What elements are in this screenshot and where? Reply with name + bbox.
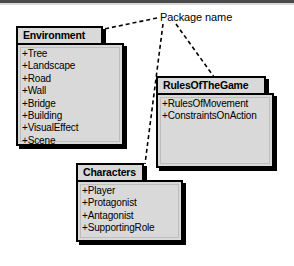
package-member: +ConstraintsOnAction (162, 110, 274, 122)
leader-line-environment (104, 18, 157, 29)
package-member: +SupportingRole (82, 222, 183, 234)
package-environment-tab[interactable]: Environment (16, 26, 103, 43)
package-member: +Scene (22, 135, 124, 147)
package-member: +Building (22, 110, 124, 122)
package-member: +Wall (22, 85, 124, 97)
package-member: +Tree (22, 48, 124, 60)
package-member: +Road (22, 73, 124, 85)
annotation-package-name-label: Package name (160, 11, 232, 23)
top-border-fade (0, 3, 294, 5)
package-member: +Protagonist (82, 197, 183, 209)
package-characters-tab[interactable]: Characters (76, 163, 144, 180)
package-rulesofthegame-tab[interactable]: RulesOfTheGame (156, 76, 266, 93)
package-environment-name: Environment (18, 30, 90, 42)
package-member: +RulesOfMovement (162, 98, 274, 110)
package-environment-members: +Tree +Landscape +Road +Wall +Bridge +Bu… (16, 45, 124, 147)
package-member: +Bridge (22, 98, 124, 110)
package-member: +Player (82, 185, 183, 197)
diagram-canvas: Environment +Tree +Landscape +Road +Wall… (0, 0, 294, 266)
package-rulesofthegame-members: +RulesOfMovement +ConstraintsOnAction (156, 95, 274, 123)
package-member: +Landscape (22, 60, 124, 72)
package-member: +VisualEffect (22, 122, 124, 134)
package-characters-members: +Player +Protagonist +Antagonist +Suppor… (76, 182, 183, 235)
package-characters-name: Characters (78, 167, 141, 179)
package-rulesofthegame-name: RulesOfTheGame (158, 80, 253, 92)
leader-line-rulesofthegame (176, 24, 214, 77)
package-member: +Antagonist (82, 210, 183, 222)
